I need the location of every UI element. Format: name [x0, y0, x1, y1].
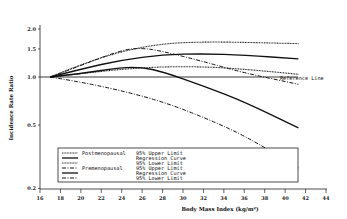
x-tick-label: 42 [302, 195, 309, 201]
x-tick-label: 32 [200, 195, 207, 201]
x-tick-label: 22 [98, 195, 105, 201]
x-ticks: 161820222426283032343638404244 [37, 189, 330, 201]
legend-group-label: Postmenopausal [82, 150, 126, 157]
series-line-3 [50, 49, 298, 85]
x-tick-label: 34 [220, 195, 227, 201]
x-tick-label: 30 [180, 195, 187, 201]
x-tick-label: 16 [37, 195, 44, 201]
x-tick-label: 24 [118, 195, 125, 201]
y-axis-title: Incidence Rate Ratio [8, 75, 14, 140]
x-tick-label: 26 [139, 195, 146, 201]
x-tick-label: 28 [159, 195, 166, 201]
y-tick-label: 2.0 [27, 26, 36, 32]
legend: 95% Upper LimitRegression Curve95% Lower… [58, 148, 298, 182]
x-tick-label: 20 [77, 195, 84, 201]
legend-group-label: Premenopausal [82, 165, 123, 172]
x-axis-title: Body Mass Index (kg/m²) [181, 206, 259, 213]
chart: Incidence Rate Ratio Body Mass Index (kg… [0, 0, 347, 219]
reference-line-label: Reference Line [280, 75, 324, 81]
x-tick-label: 38 [261, 195, 268, 201]
legend-item-label: 95% Lower Limit [136, 175, 183, 181]
svg-text:Incidence Rate Ratio: Incidence Rate Ratio [8, 75, 14, 140]
series-line-0 [50, 42, 298, 77]
y-tick-label: 1.5 [27, 46, 36, 52]
series-line-1 [50, 54, 298, 77]
y-tick-label: 0.2 [27, 185, 36, 191]
x-tick-label: 44 [323, 195, 330, 201]
x-tick-label: 18 [57, 195, 64, 201]
x-tick-label: 36 [241, 195, 248, 201]
y-ticks: 0.20.51.01.52.0 [27, 26, 40, 191]
x-tick-label: 40 [282, 195, 289, 201]
y-tick-label: 1.0 [27, 74, 36, 80]
y-tick-label: 0.5 [27, 122, 36, 128]
